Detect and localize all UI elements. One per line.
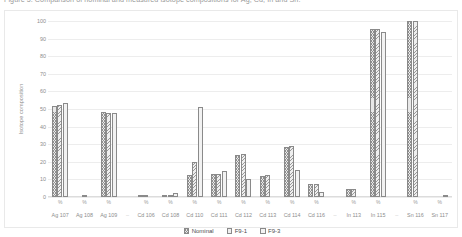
- group-spacer: [329, 21, 342, 197]
- x-axis-unit-label: %: [428, 199, 452, 213]
- unit-group: %%%%%%%%: [134, 199, 329, 213]
- bar-f9-1: [143, 195, 148, 197]
- x-axis-category-label: Cd 110: [183, 212, 207, 224]
- bars: [162, 193, 179, 197]
- group-spacer: [390, 199, 403, 213]
- y-axis-tick-label: 90: [12, 36, 46, 42]
- bars: [76, 195, 93, 197]
- x-axis-category-label: Cd 108: [158, 212, 182, 224]
- bar-f9-3: [443, 195, 448, 197]
- x-axis-unit-label: %: [97, 199, 121, 213]
- legend-swatch-icon: [227, 228, 233, 234]
- bars: [187, 107, 204, 197]
- x-axis-category-label: Sn 116: [403, 212, 427, 224]
- bar-nominal: [52, 106, 57, 197]
- legend-item-nominal[interactable]: Nominal: [184, 228, 214, 234]
- bar-f9-1: [216, 174, 221, 197]
- bar-f9-3: [295, 170, 300, 197]
- gridline: [48, 197, 452, 198]
- chart-frame: Isotope composition 01020304050607080901…: [4, 10, 458, 228]
- group-separator: –: [390, 212, 403, 224]
- bar-nominal: [138, 195, 143, 197]
- bars: [407, 21, 424, 197]
- unit-group: %%: [403, 199, 452, 213]
- bars: [308, 184, 325, 197]
- bar-cluster: [72, 21, 96, 197]
- bar-cluster: [97, 21, 121, 197]
- bar-nominal: [211, 174, 216, 197]
- x-axis-category-label: Cd 112: [231, 212, 255, 224]
- bar-nominal: [187, 175, 192, 197]
- x-axis-category-label: Sn 117: [428, 212, 452, 224]
- category-label-group: Sn 116Sn 117: [403, 212, 452, 224]
- bar-f9-1: [82, 195, 87, 197]
- bar-cluster: [304, 21, 328, 197]
- group-separator: –: [329, 212, 342, 224]
- bar-f9-1: [351, 189, 356, 197]
- group-separator: –: [121, 212, 134, 224]
- bar-nominal: [162, 195, 167, 197]
- x-axis-unit-label: %: [280, 199, 304, 213]
- x-axis-category-label: In 113: [342, 212, 366, 224]
- bar-groups: [48, 21, 452, 197]
- element-group-cd: [134, 21, 329, 197]
- bar-f9-3: [198, 107, 203, 197]
- legend-swatch-icon: [184, 228, 190, 234]
- x-axis-unit-label: %: [342, 199, 366, 213]
- x-axis-category-label: In 115: [366, 212, 390, 224]
- bars: [260, 175, 277, 197]
- bar-f9-1: [413, 21, 418, 197]
- group-spacer: [121, 199, 134, 213]
- bar-cluster: [134, 21, 158, 197]
- y-axis-tick-label: 70: [12, 71, 46, 77]
- x-axis-unit-label: %: [403, 199, 427, 213]
- x-axis-category-row: Ag 107Ag 108Ag 109–Cd 106Cd 108Cd 110Cd …: [48, 212, 452, 224]
- figure-caption: Figure 5. Comparison of nominal and meas…: [4, 0, 300, 4]
- bars: [284, 146, 301, 197]
- bar-f9-3: [173, 193, 178, 197]
- bar-f9-1: [106, 113, 111, 197]
- bar-f9-3: [222, 171, 227, 197]
- legend-label: F9-3: [268, 228, 280, 234]
- x-axis-unit-label: %: [158, 199, 182, 213]
- x-axis-unit-label: %: [366, 199, 390, 213]
- y-axis-tick-label: 40: [12, 124, 46, 130]
- legend-label: F9-1: [235, 228, 247, 234]
- legend-item-f9-3[interactable]: F9-3: [260, 228, 280, 234]
- figure-container: Figure 5. Comparison of nominal and meas…: [0, 0, 462, 237]
- element-group-sn: [403, 21, 452, 197]
- bar-f9-3: [381, 32, 386, 197]
- y-axis-tick-label: 0: [12, 194, 46, 200]
- bar-f9-1: [314, 184, 319, 197]
- bar-f9-1: [57, 105, 62, 197]
- x-axis-category-label: Cd 111: [207, 212, 231, 224]
- y-axis-tick-label: 80: [12, 53, 46, 59]
- bar-cluster: [231, 21, 255, 197]
- bar-nominal: [284, 147, 289, 198]
- bars: [52, 103, 69, 197]
- x-axis-unit-label: %: [48, 199, 72, 213]
- x-axis-category-label: Cd 113: [256, 212, 280, 224]
- x-axis-category-label: Cd 106: [134, 212, 158, 224]
- x-axis-unit-label: %: [134, 199, 158, 213]
- bar-cluster: [280, 21, 304, 197]
- y-axis-tick-label: 100: [12, 18, 46, 24]
- category-label-group: Ag 107Ag 108Ag 109: [48, 212, 121, 224]
- x-axis-unit-label: %: [72, 199, 96, 213]
- legend-item-f9-1[interactable]: F9-1: [227, 228, 247, 234]
- bars: [346, 189, 363, 197]
- y-axis-tick-label: 10: [12, 176, 46, 182]
- bar-nominal: [346, 189, 351, 197]
- bar-f9-1: [241, 154, 246, 197]
- bars: [211, 171, 228, 197]
- figure-caption-strip: Figure 5. Comparison of nominal and meas…: [0, 0, 462, 9]
- bars: [432, 195, 449, 197]
- bar-cluster: [342, 21, 366, 197]
- x-axis-category-label: Cd 116: [304, 212, 328, 224]
- element-group-in: [342, 21, 391, 197]
- unit-group: %%%: [48, 199, 121, 213]
- x-axis-unit-label: %: [183, 199, 207, 213]
- bar-nominal: [407, 21, 412, 197]
- bar-f9-1: [265, 175, 270, 197]
- element-group-ag: [48, 21, 121, 197]
